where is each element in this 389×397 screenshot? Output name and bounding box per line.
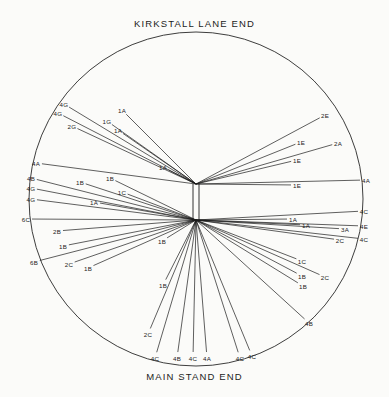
shot-line [196, 220, 238, 352]
shot-line [37, 200, 196, 220]
shot-line [115, 181, 196, 220]
shot-line [100, 203, 196, 220]
shot-line [126, 114, 196, 184]
shot-line [196, 220, 207, 352]
shot-chart-diagram: KIRKSTALL LANE END 4G4G2G1A1G1A1A4A2E1E2… [0, 0, 389, 397]
shot-line [196, 220, 305, 319]
shot-line [196, 145, 332, 184]
shot-line [196, 220, 320, 275]
shot-line [69, 107, 196, 184]
centre-goal-line [193, 184, 199, 221]
shot-trajectory-lines [32, 107, 360, 352]
pitch-svg [0, 0, 389, 397]
main-stand-end-caption: MAIN STAND END [0, 371, 389, 382]
shot-line [123, 133, 196, 184]
shot-line [42, 164, 196, 184]
shot-line [196, 220, 298, 283]
shot-line [69, 220, 196, 245]
pitch-boundary-circle [29, 32, 363, 366]
shot-line [196, 220, 297, 273]
shot-line [32, 219, 196, 220]
shot-line [196, 211, 358, 220]
shot-line [37, 179, 196, 220]
shot-line [128, 194, 196, 220]
shot-line [150, 220, 196, 328]
shot-line [196, 220, 250, 350]
shot-line [196, 184, 291, 185]
shot-line [77, 129, 196, 184]
shot-line [157, 220, 196, 352]
shot-line [196, 180, 360, 184]
shot-line [196, 118, 320, 184]
